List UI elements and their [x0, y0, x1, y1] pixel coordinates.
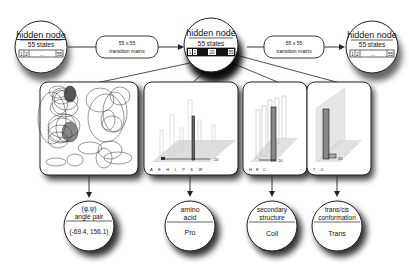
secondary-axis-letters: H E C [249, 167, 267, 172]
highlighted-bar [323, 109, 329, 159]
observed-node-amino-acid: amino acid Pro [165, 201, 215, 251]
node-title: (φ,ψ) [82, 205, 97, 213]
hidden-node-1: hidden node 55 states 1 2 ... 55 [15, 21, 67, 73]
node-value: Pro [185, 229, 196, 236]
hidden-node-3: hidden node 55 states 1 2 ... 55 [346, 21, 398, 73]
observed-node-secondary-structure: secondary structure Coil [247, 201, 297, 251]
state-cell: ... [371, 52, 375, 57]
state-axis-label: 20 [338, 156, 343, 161]
transition-size: 55 x 55 [286, 40, 303, 46]
highlighted-bar [192, 116, 195, 160]
cis-bar [329, 154, 336, 158]
node-title: angle pair [75, 213, 104, 221]
panel-angle-pair [38, 82, 138, 175]
hidden-node-2: hidden node 55 states 1 2 20 55 [184, 18, 238, 72]
node-title: structure [259, 214, 285, 221]
observed-node-angle-pair: (φ,ψ) angle pair (-69.4, 156.1) [64, 201, 114, 251]
panel-amino-acid: 20 A E H L P S W [144, 82, 238, 175]
transition-box-1: 55 x 55 transition matrix [96, 36, 158, 58]
highlighted-bar [271, 107, 276, 161]
state-cell: 55 [388, 52, 394, 57]
node-title: conformation [318, 214, 356, 221]
transition-label: transition matrix [276, 48, 312, 54]
node-title: hidden node [186, 28, 236, 38]
state-axis-label: 20 [214, 157, 219, 162]
node-title: acid [184, 214, 197, 221]
state-cell: 55 [228, 50, 234, 55]
node-title: trans/cis [325, 206, 350, 213]
node-value: Coil [266, 230, 279, 237]
transition-box-2: 55 x 55 transition matrix [264, 36, 324, 58]
node-title: hidden node [347, 30, 397, 40]
observed-node-trans-cis: trans/cis conformation Trans [312, 201, 362, 251]
node-value: Trans [328, 230, 346, 237]
amino-axis-letters: A E H L P S W [150, 167, 204, 172]
node-title: hidden node [16, 30, 66, 40]
node-states: 55 states [359, 41, 386, 48]
node-value: (-69.4, 156.1) [69, 228, 108, 236]
state-cell-active: 20 [209, 50, 215, 55]
state-row-start [161, 157, 165, 160]
node-states: 55 states [28, 41, 55, 48]
state-cell: 55 [57, 52, 63, 57]
node-title: secondary [257, 206, 288, 214]
panel-secondary-structure: 20 H E C [243, 82, 307, 175]
state-axis-label: 20 [278, 158, 283, 163]
node-states: 55 states [198, 40, 225, 47]
transcis-axis-letters: T C [313, 167, 325, 172]
transition-size: 55 x 55 [119, 40, 136, 46]
node-title: amino [180, 206, 199, 213]
diagram-canvas: 55 x 55 transition matrix 55 x 55 transi… [0, 0, 409, 277]
panel-trans-cis: 20 T C [307, 82, 371, 175]
transition-label: transition matrix [109, 48, 145, 54]
state-cell: ... [40, 52, 44, 57]
